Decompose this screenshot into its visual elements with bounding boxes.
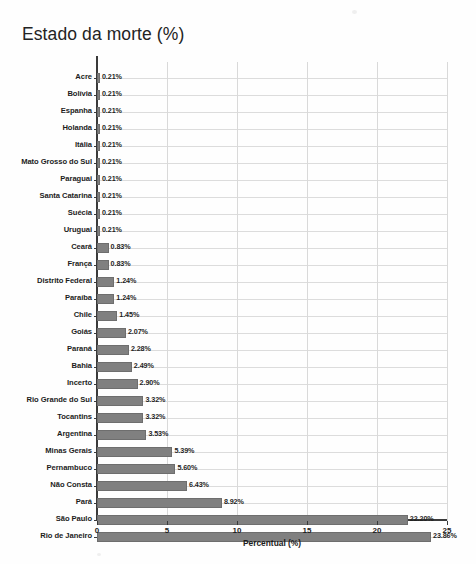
bar-row: Espanha0.21% <box>97 104 476 121</box>
category-label: Espanha <box>61 106 92 115</box>
bar-row: Santa Catarina0.21% <box>97 189 476 206</box>
bar-value-label: 5.60% <box>177 463 197 472</box>
bar-row: Argentina3.53% <box>97 427 476 444</box>
bar-value-label: 5.39% <box>174 446 194 455</box>
bar[interactable] <box>97 226 100 236</box>
bar[interactable] <box>97 141 100 151</box>
bar-value-label: 0.21% <box>102 123 122 132</box>
bar-row: Bahia2.49% <box>97 359 476 376</box>
bar-row: Goiás2.07% <box>97 325 476 342</box>
bar-value-label: 8.92% <box>224 497 244 506</box>
category-label: São Paulo <box>56 514 92 523</box>
bar-row: Chile1.45% <box>97 308 476 325</box>
x-axis-tick <box>447 521 448 525</box>
bar[interactable] <box>97 107 100 117</box>
bar[interactable] <box>97 430 146 440</box>
bar-row: Paraná2.28% <box>97 342 476 359</box>
bar-value-label: 3.32% <box>145 395 165 404</box>
bar-row: Rio Grande do Sul3.32% <box>97 393 476 410</box>
x-axis-tick <box>307 521 308 525</box>
bar-row: Mato Grosso do Sul0.21% <box>97 155 476 172</box>
bar-value-label: 0.21% <box>102 106 122 115</box>
bar[interactable] <box>97 447 172 457</box>
bar-value-label: 0.83% <box>111 242 131 251</box>
category-label: França <box>67 259 92 268</box>
bar[interactable] <box>97 345 129 355</box>
category-label: Chile <box>74 310 92 319</box>
bar-value-label: 2.07% <box>128 327 148 336</box>
bar[interactable] <box>97 260 109 270</box>
bar[interactable] <box>97 209 100 219</box>
bar[interactable] <box>97 413 143 423</box>
bar-row: Não Consta6.43% <box>97 478 476 495</box>
bar[interactable] <box>97 158 100 168</box>
bar-row: Bolívia0.21% <box>97 87 476 104</box>
bar-value-label: 0.21% <box>102 208 122 217</box>
bar-value-label: 0.21% <box>102 174 122 183</box>
bar[interactable] <box>97 464 175 474</box>
bar[interactable] <box>97 73 100 83</box>
bar[interactable] <box>97 515 408 525</box>
bar-value-label: 1.45% <box>119 310 139 319</box>
bar-row: Pará8.92% <box>97 495 476 512</box>
chart-title: Estado da morte (%) <box>22 24 184 45</box>
bar[interactable] <box>97 328 126 338</box>
bar[interactable] <box>97 90 100 100</box>
bar-value-label: 0.21% <box>102 225 122 234</box>
category-label: Suécia <box>68 208 92 217</box>
bar-row: Pernambuco5.60% <box>97 461 476 478</box>
bar-value-label: 2.28% <box>131 344 151 353</box>
bar-row: Uruguai0.21% <box>97 223 476 240</box>
bar-row: Itália0.21% <box>97 138 476 155</box>
category-label: Pará <box>76 497 92 506</box>
bar-value-label: 3.32% <box>145 412 165 421</box>
category-label: Holanda <box>62 123 92 132</box>
bar-value-label: 6.43% <box>189 480 209 489</box>
bar[interactable] <box>97 192 100 202</box>
bar-value-label: 2.49% <box>134 361 154 370</box>
bar-rows: Acre0.21%Bolívia0.21%Espanha0.21%Holanda… <box>97 62 447 521</box>
category-label: Não Consta <box>50 480 92 489</box>
bar-value-label: 0.21% <box>102 157 122 166</box>
category-label: Paraíba <box>65 293 92 302</box>
bar-value-label: 1.24% <box>116 276 136 285</box>
x-axis-tick <box>97 521 98 525</box>
bar-row: Ceará0.83% <box>97 240 476 257</box>
bar[interactable] <box>97 311 117 321</box>
x-axis-tick <box>377 521 378 525</box>
bar-row: Suécia0.21% <box>97 206 476 223</box>
bar[interactable] <box>97 379 138 389</box>
bar-value-label: 2.90% <box>140 378 160 387</box>
bar[interactable] <box>97 396 143 406</box>
bar-value-label: 0.21% <box>102 140 122 149</box>
bar-row: São Paulo22.20% <box>97 512 476 529</box>
category-label: Tocantins <box>57 412 92 421</box>
category-label: Paraná <box>67 344 92 353</box>
bar[interactable] <box>97 294 114 304</box>
x-axis-tick <box>237 521 238 525</box>
chart-figure: Estado da morte (%) Acre0.21%Bolívia0.21… <box>0 0 476 564</box>
category-label: Ceará <box>71 242 92 251</box>
bar[interactable] <box>97 277 114 287</box>
category-label: Pernambuco <box>47 463 93 472</box>
bar[interactable] <box>97 498 222 508</box>
bar-row: Incerto2.90% <box>97 376 476 393</box>
bar[interactable] <box>97 362 132 372</box>
bar-value-label: 3.53% <box>148 429 168 438</box>
category-label: Incerto <box>67 378 92 387</box>
bar-value-label: 0.83% <box>111 259 131 268</box>
bar[interactable] <box>97 175 100 185</box>
bar-row: Distrito Federal1.24% <box>97 274 476 291</box>
bar[interactable] <box>97 243 109 253</box>
bar-value-label: 0.21% <box>102 72 122 81</box>
paper-speckle <box>97 553 101 556</box>
bar-value-label: 0.21% <box>102 89 122 98</box>
x-axis-tick-label: 15 <box>303 526 312 535</box>
category-label: Santa Catarina <box>40 191 92 200</box>
bar-row: Paraguai0.21% <box>97 172 476 189</box>
bar[interactable] <box>97 124 100 134</box>
bar[interactable] <box>97 481 187 491</box>
paper-speckle <box>352 10 357 14</box>
plot-area: Acre0.21%Bolívia0.21%Espanha0.21%Holanda… <box>97 62 447 521</box>
bar-row: Tocantins3.32% <box>97 410 476 427</box>
